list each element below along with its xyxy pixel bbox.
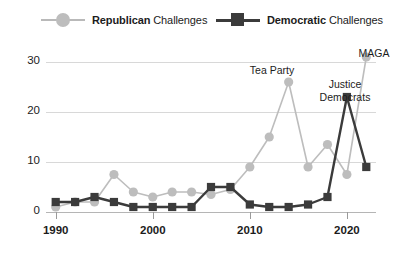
x-axis-line	[46, 212, 376, 213]
series-lines	[46, 52, 376, 212]
data-point-circle	[187, 187, 196, 196]
data-point-circle	[342, 170, 351, 179]
data-point-circle	[129, 187, 138, 196]
legend-marker-republican	[41, 13, 85, 27]
data-point-square	[71, 198, 79, 206]
x-tick-label-2020: 2020	[334, 224, 360, 236]
legend-item-republican: Republican Challenges	[41, 10, 207, 30]
y-tick-label-10: 10	[14, 154, 40, 166]
x-tick-2010	[250, 212, 251, 219]
data-point-circle	[303, 162, 312, 171]
legend-label-republican-rest: Challenges	[150, 14, 207, 26]
x-tick-2000	[153, 212, 154, 219]
data-point-square	[129, 203, 137, 211]
x-tick-label-2000: 2000	[140, 224, 166, 236]
legend-label-democratic: Democratic Challenges	[267, 14, 383, 26]
y-tick-label-30: 30	[14, 54, 40, 66]
legend-marker-democratic	[216, 13, 260, 27]
data-point-square	[187, 203, 195, 211]
legend-label-democratic-bold: Democratic	[267, 14, 326, 26]
data-point-square	[52, 198, 60, 206]
data-point-square	[90, 193, 98, 201]
data-point-square	[246, 200, 254, 208]
data-point-circle	[148, 192, 157, 201]
data-point-square	[304, 200, 312, 208]
legend-label-democratic-rest: Challenges	[326, 14, 383, 26]
data-point-square	[168, 203, 176, 211]
annotation-line: Tea Party	[250, 64, 294, 77]
annotation-maga: MAGA	[359, 47, 390, 60]
y-tick-label-20: 20	[14, 104, 40, 116]
x-tick-label-1990: 1990	[43, 224, 69, 236]
data-point-square	[226, 183, 234, 191]
legend-item-democratic: Democratic Challenges	[216, 10, 383, 30]
annotation-line: Justice	[320, 78, 371, 91]
legend-label-republican-bold: Republican	[92, 14, 150, 26]
y-tick-label-0: 0	[14, 204, 40, 216]
x-tick-2020	[347, 212, 348, 219]
circle-marker-icon	[56, 13, 70, 27]
data-point-circle	[265, 132, 274, 141]
data-point-circle	[109, 170, 118, 179]
square-marker-icon	[231, 13, 244, 26]
annotation-line: MAGA	[359, 47, 390, 60]
annotation-justice-democrats: JusticeDemocrats	[320, 78, 371, 103]
data-point-square	[323, 193, 331, 201]
data-point-circle	[323, 140, 332, 149]
annotation-line: Democrats	[320, 91, 371, 104]
data-point-circle	[245, 162, 254, 171]
plot-area: 1990200020102020	[46, 52, 376, 212]
x-tick-1990	[56, 212, 57, 219]
x-tick-label-2010: 2010	[237, 224, 263, 236]
data-point-square	[207, 183, 215, 191]
data-point-circle	[168, 187, 177, 196]
chart-root: Republican Challenges Democratic Challen…	[0, 0, 398, 266]
data-point-square	[285, 203, 293, 211]
data-point-square	[362, 163, 370, 171]
chart-legend: Republican Challenges Democratic Challen…	[0, 8, 398, 34]
data-point-circle	[284, 77, 293, 86]
data-point-square	[110, 198, 118, 206]
annotation-tea-party: Tea Party	[250, 64, 294, 77]
data-point-square	[149, 203, 157, 211]
data-point-square	[265, 203, 273, 211]
legend-label-republican: Republican Challenges	[92, 14, 207, 26]
